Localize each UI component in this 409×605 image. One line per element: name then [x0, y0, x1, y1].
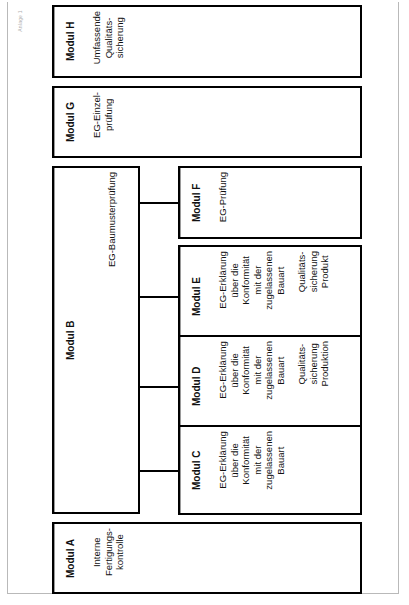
module-text-b-1: EG-Baumusterprüfung — [106, 172, 118, 267]
connector-b-to-d — [140, 386, 178, 388]
module-text-f-1: EG-Prüfung — [217, 172, 229, 222]
module-body-g: EG-Einzel- prüfung — [85, 88, 360, 156]
module-text-d-2: Qualitäts- sicherung Produktion — [296, 341, 331, 386]
module-text-g-1: EG-Einzel- prüfung — [91, 92, 114, 138]
module-text-c-1: EG-Erklärung über die Konformität mit de… — [217, 431, 286, 490]
module-title-h: Modul H — [54, 7, 85, 76]
module-body-c: EG-Erklärung über die Konformität mit de… — [211, 427, 360, 513]
module-title-c: Modul C — [180, 427, 211, 513]
module-title-f: Modul F — [180, 168, 211, 237]
module-body-f: EG-Prüfung — [211, 168, 360, 237]
connector-b-to-f — [140, 202, 178, 204]
module-body-a: Interne Fertigungs- kontrolle — [85, 524, 360, 592]
scanned-page: Anlage 1 Modul HUmfassende Qualitäts- si… — [0, 0, 409, 605]
module-body-e: EG-Erklärung über die Konformität mit de… — [211, 247, 360, 346]
module-text-h-1: Umfassende Qualitäts- sicherung — [91, 11, 126, 64]
module-box-a[interactable]: Modul AInterne Fertigungs- kontrolle — [52, 522, 362, 594]
module-text-e-1: EG-Erklärung über die Konformität mit de… — [217, 251, 286, 310]
module-box-g[interactable]: Modul GEG-Einzel- prüfung — [52, 86, 362, 158]
module-text-d-1: EG-Erklärung über die Konformität mit de… — [217, 341, 286, 400]
module-box-e[interactable]: Modul EEG-Erklärung über die Konformität… — [178, 245, 362, 348]
module-title-d: Modul D — [180, 337, 211, 436]
module-title-a: Modul A — [54, 524, 85, 592]
connector-b-to-e — [140, 296, 178, 298]
module-body-d: EG-Erklärung über die Konformität mit de… — [211, 337, 360, 436]
module-text-e-2: Qualitäts- sicherung Produkt — [296, 251, 331, 292]
module-box-f[interactable]: Modul FEG-Prüfung — [178, 166, 362, 239]
module-body-h: Umfassende Qualitäts- sicherung — [85, 7, 360, 76]
page-border-left — [7, 2, 8, 594]
page-caption: Anlage 1 — [17, 0, 23, 51]
module-box-c[interactable]: Modul CEG-Erklärung über die Konformität… — [178, 425, 362, 515]
module-title-b: Modul B — [54, 168, 85, 512]
module-text-a-1: Interne Fertigungs- kontrolle — [91, 528, 126, 576]
module-title-g: Modul G — [54, 88, 85, 156]
module-body-b: EG-Baumusterprüfung — [85, 168, 138, 512]
page-border-right — [398, 2, 399, 594]
module-title-e: Modul E — [180, 247, 211, 346]
connector-b-to-c — [140, 470, 178, 472]
module-box-b[interactable]: Modul BEG-Baumusterprüfung — [52, 166, 140, 514]
module-box-d[interactable]: Modul DEG-Erklärung über die Konformität… — [178, 335, 362, 438]
module-box-h[interactable]: Modul HUmfassende Qualitäts- sicherung — [52, 5, 362, 78]
